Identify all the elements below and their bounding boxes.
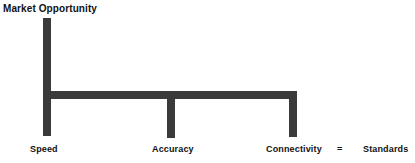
equation-result-standards: Standards	[363, 143, 408, 155]
bracket-stem-vertical	[43, 18, 51, 92]
bracket-leg-speed	[43, 99, 51, 136]
page-title: Market Opportunity	[3, 2, 97, 15]
branch-label-accuracy: Accuracy	[152, 143, 194, 155]
equals-operator: =	[337, 143, 342, 155]
bracket-leg-accuracy	[167, 99, 175, 138]
diagram-canvas: Market Opportunity Speed Accuracy Connec…	[0, 0, 415, 163]
branch-label-connectivity: Connectivity	[266, 143, 322, 155]
bracket-horizontal-beam	[43, 91, 297, 99]
branch-label-speed: Speed	[30, 143, 58, 155]
bracket-leg-connectivity	[289, 99, 297, 137]
